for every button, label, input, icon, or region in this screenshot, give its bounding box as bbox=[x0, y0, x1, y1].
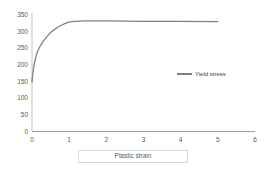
y-tick-label: 50 bbox=[21, 111, 29, 118]
x-axis-label: Plastic strain bbox=[115, 153, 152, 160]
plot-area: 0501001502002503003500123456 bbox=[0, 0, 270, 173]
y-tick-label: 250 bbox=[17, 44, 28, 51]
x-tick-label: 3 bbox=[142, 136, 146, 143]
x-axis-label-box: Plastic strain bbox=[78, 150, 188, 163]
legend-label: Yield stress bbox=[195, 71, 226, 77]
x-tick-label: 6 bbox=[253, 136, 257, 143]
x-tick-label: 0 bbox=[30, 136, 34, 143]
y-tick-label: 300 bbox=[17, 28, 28, 35]
y-tick-label: 350 bbox=[17, 11, 28, 18]
y-tick-label: 150 bbox=[17, 78, 28, 85]
y-tick-label: 0 bbox=[24, 128, 28, 135]
x-tick-label: 2 bbox=[105, 136, 109, 143]
yield-stress-chart: 0501001502002503003500123456 Yield stres… bbox=[0, 0, 270, 173]
x-tick-label: 5 bbox=[216, 136, 220, 143]
x-tick-label: 4 bbox=[179, 136, 183, 143]
legend-line-marker bbox=[177, 73, 192, 75]
legend: Yield stress bbox=[177, 71, 226, 77]
y-tick-label: 200 bbox=[17, 61, 28, 68]
x-tick-label: 1 bbox=[67, 136, 71, 143]
y-tick-label: 100 bbox=[17, 94, 28, 101]
